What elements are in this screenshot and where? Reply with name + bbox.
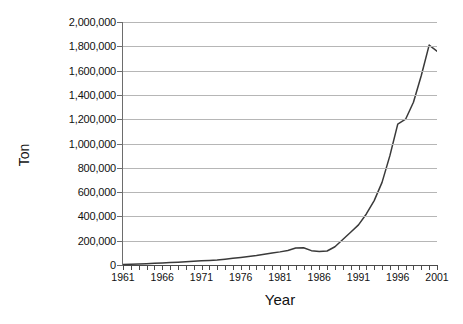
x-axis-title: Year xyxy=(123,292,437,307)
x-axis-tick xyxy=(327,266,328,270)
x-axis-tick-label: 1971 xyxy=(182,272,222,283)
gridline xyxy=(123,22,437,23)
x-axis-tick xyxy=(406,266,407,270)
x-axis-tick xyxy=(413,266,414,270)
x-axis-tick xyxy=(123,266,124,270)
x-axis-tick-label: 1961 xyxy=(103,272,143,283)
x-axis-tick-label: 1991 xyxy=(339,272,379,283)
x-axis-tick xyxy=(162,266,163,270)
x-axis-tick xyxy=(304,266,305,270)
x-axis-tick xyxy=(170,266,171,270)
x-axis-tick xyxy=(147,266,148,270)
gridline xyxy=(123,216,437,217)
x-axis-tick xyxy=(296,266,297,270)
y-axis-tick-label: 400,000 xyxy=(44,211,116,222)
line-chart: 2,000,0001,800,0001,600,0001,400,0001,20… xyxy=(0,0,463,324)
x-axis-tick xyxy=(374,266,375,270)
x-axis-tick xyxy=(256,266,257,270)
y-axis-tick-label: 1,600,000 xyxy=(44,66,116,77)
x-axis-tick-label: 1976 xyxy=(221,272,261,283)
y-axis-tick-label: 1,400,000 xyxy=(44,90,116,101)
y-axis-tick xyxy=(117,46,123,47)
x-axis-tick xyxy=(209,266,210,270)
x-axis-tick xyxy=(186,266,187,270)
x-axis-tick xyxy=(390,266,391,270)
y-axis-tick-label: 1,000,000 xyxy=(44,139,116,150)
y-axis-tick xyxy=(117,119,123,120)
x-axis-tick xyxy=(225,266,226,270)
x-axis-tick xyxy=(217,266,218,270)
y-axis-tick xyxy=(117,144,123,145)
gridline xyxy=(123,46,437,47)
x-axis-tick xyxy=(421,266,422,270)
y-axis-tick xyxy=(117,22,123,23)
x-axis-tick xyxy=(366,266,367,270)
y-axis-title: Ton xyxy=(17,125,31,185)
x-axis-tick xyxy=(154,266,155,270)
x-axis-tick xyxy=(398,266,399,270)
x-axis-tick-label: 1996 xyxy=(378,272,418,283)
x-axis-tick xyxy=(131,266,132,270)
y-axis-tick-label: 600,000 xyxy=(44,187,116,198)
x-axis-tick xyxy=(437,266,438,270)
gridline xyxy=(123,119,437,120)
y-axis-tick xyxy=(117,216,123,217)
x-axis-tick-label: 1986 xyxy=(299,272,339,283)
y-axis-tick-label: 1,800,000 xyxy=(44,41,116,52)
x-axis-tick-label: 1966 xyxy=(142,272,182,283)
x-axis-tick xyxy=(319,266,320,270)
x-axis-tick xyxy=(139,266,140,270)
gridline xyxy=(123,71,437,72)
x-axis-tick xyxy=(178,266,179,270)
y-axis-tick-label: 800,000 xyxy=(44,163,116,174)
gridline xyxy=(123,241,437,242)
y-axis-tick xyxy=(117,71,123,72)
x-axis-tick-label: 2001 xyxy=(417,272,457,283)
x-axis-tick xyxy=(202,266,203,270)
gridline xyxy=(123,168,437,169)
gridline xyxy=(123,192,437,193)
x-axis-tick xyxy=(264,266,265,270)
gridline xyxy=(123,144,437,145)
y-axis-tick xyxy=(117,192,123,193)
y-axis-tick xyxy=(117,168,123,169)
x-axis-tick xyxy=(351,266,352,270)
y-axis-tick xyxy=(117,241,123,242)
x-axis-tick-label: 1981 xyxy=(260,272,300,283)
x-axis-tick xyxy=(359,266,360,270)
y-axis-tick xyxy=(117,95,123,96)
x-axis-tick xyxy=(233,266,234,270)
x-axis-tick xyxy=(311,266,312,270)
x-axis-tick xyxy=(343,266,344,270)
x-axis-tick xyxy=(249,266,250,270)
plot-area xyxy=(123,22,437,265)
x-axis-tick xyxy=(429,266,430,270)
x-axis-tick xyxy=(194,266,195,270)
x-axis-tick xyxy=(335,266,336,270)
x-axis-tick xyxy=(288,266,289,270)
x-axis-tick xyxy=(272,266,273,270)
x-axis-tick xyxy=(241,266,242,270)
y-axis-tick-label: 1,200,000 xyxy=(44,114,116,125)
y-axis-tick-label: 200,000 xyxy=(44,236,116,247)
x-axis-tick xyxy=(280,266,281,270)
gridline xyxy=(123,95,437,96)
x-axis-tick xyxy=(382,266,383,270)
series-path xyxy=(123,45,437,264)
y-axis-tick-label: 2,000,000 xyxy=(44,17,116,28)
y-axis-tick-label: 0 xyxy=(44,260,116,271)
